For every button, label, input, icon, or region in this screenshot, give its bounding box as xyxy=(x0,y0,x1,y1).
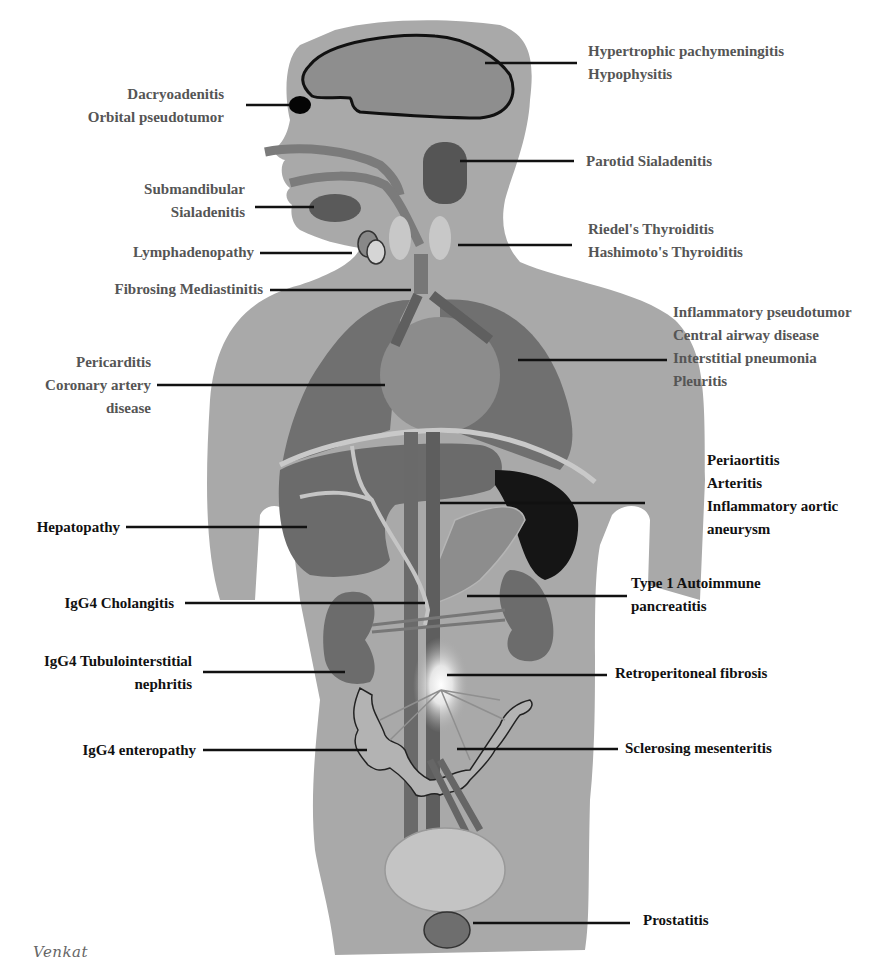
label-igg4-enteropathy: IgG4 enteropathy xyxy=(83,739,196,762)
label-lymphadenopathy: Lymphadenopathy xyxy=(133,241,254,264)
submandibular-gland xyxy=(309,194,361,222)
label-sclerosing-mesenteritis: Sclerosing mesenteritis xyxy=(625,737,772,760)
label-thyroiditis: Riedel's ThyroiditisHashimoto's Thyroidi… xyxy=(588,218,743,264)
label-dacryoadenitis: DacryoadenitisOrbital pseudotumor xyxy=(88,83,224,129)
label-tubulointerstitial-nephritis: IgG4 Tubulointerstitialnephritis xyxy=(44,650,192,696)
lymph-node-2 xyxy=(367,240,385,264)
thyroid-right xyxy=(429,216,451,260)
label-periaortitis: PeriaortitisArteritisInflammatory aortic… xyxy=(707,449,838,541)
label-hepatopathy: Hepatopathy xyxy=(37,516,120,539)
igg4-organ-diagram: DacryoadenitisOrbital pseudotumor Subman… xyxy=(0,0,882,971)
label-retroperitoneal-fibrosis: Retroperitoneal fibrosis xyxy=(615,662,767,685)
label-parotid-sialadenitis: Parotid Sialadenitis xyxy=(586,150,712,173)
label-prostatitis: Prostatitis xyxy=(643,909,709,932)
label-lung-disease: Inflammatory pseudotumorCentral airway d… xyxy=(673,301,852,393)
label-autoimmune-pancreatitis: Type 1 Autoimmunepancreatitis xyxy=(631,572,761,618)
trachea xyxy=(414,254,428,294)
bladder xyxy=(385,828,505,912)
label-fibrosing-mediastinitis: Fibrosing Mediastinitis xyxy=(115,278,264,301)
retroperitoneal-fibrosis-glow xyxy=(413,637,469,733)
artist-signature: Venkat xyxy=(33,943,88,961)
label-igg4-cholangitis: IgG4 Cholangitis xyxy=(64,592,174,615)
label-submandibular-sialadenitis: SubmandibularSialadenitis xyxy=(144,178,245,224)
eye-orbit xyxy=(289,96,311,114)
label-pericarditis: PericarditisCoronary arterydisease xyxy=(45,351,151,420)
parotid-gland xyxy=(423,142,467,204)
thyroid-left xyxy=(389,216,411,260)
label-hypertrophic-pachymeningitis: Hypertrophic pachymeningitisHypophysitis xyxy=(588,40,784,86)
prostate xyxy=(424,912,470,948)
